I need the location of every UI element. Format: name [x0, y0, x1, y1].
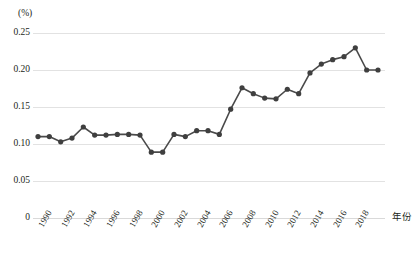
data-point-1994	[81, 124, 86, 129]
data-point-2010	[262, 96, 267, 101]
data-point-2019	[364, 67, 369, 72]
data-point-1998	[126, 132, 131, 137]
data-point-2018	[353, 45, 358, 50]
series-line-biZhong	[38, 48, 378, 152]
data-point-2011	[273, 96, 278, 101]
data-point-2007	[228, 107, 233, 112]
data-point-2009	[251, 91, 256, 96]
data-point-2014	[307, 70, 312, 75]
data-point-1992	[58, 139, 63, 144]
figure-caption	[0, 263, 418, 268]
data-point-2012	[285, 87, 290, 92]
x-axis-title: 年份	[392, 209, 412, 223]
data-point-1995	[92, 133, 97, 138]
data-point-1991	[47, 134, 52, 139]
data-point-2003	[183, 134, 188, 139]
data-point-1993	[69, 135, 74, 140]
data-point-1996	[103, 133, 108, 138]
data-point-2013	[296, 91, 301, 96]
data-point-2020	[375, 67, 380, 72]
data-point-2004	[194, 128, 199, 133]
data-point-2008	[239, 85, 244, 90]
data-point-2016	[330, 57, 335, 62]
data-point-1999	[137, 133, 142, 138]
data-point-2006	[217, 132, 222, 137]
data-point-2001	[160, 150, 165, 155]
chart-container: (%) 00.050.100.150.200.25 19901992199419…	[0, 0, 418, 268]
data-point-2002	[171, 132, 176, 137]
data-point-2005	[205, 128, 210, 133]
data-point-2000	[149, 150, 154, 155]
data-point-1990	[35, 134, 40, 139]
data-point-2015	[319, 61, 324, 66]
data-point-2017	[341, 54, 346, 59]
plot-area	[0, 0, 418, 268]
data-point-1997	[115, 132, 120, 137]
